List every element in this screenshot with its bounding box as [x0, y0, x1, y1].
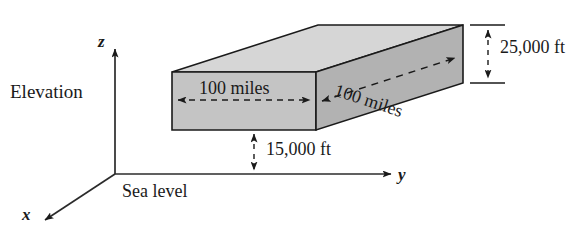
- box-height-label: 25,000 ft: [500, 38, 565, 56]
- elevation-box-diagram: Elevation z y x Sea level 100 miles 100 …: [0, 0, 585, 240]
- z-axis-label: z: [98, 33, 105, 50]
- sea-level-label: Sea level: [122, 182, 187, 200]
- x-axis: [45, 174, 115, 220]
- x-axis-label: x: [22, 206, 31, 223]
- diagram-canvas: [0, 0, 585, 240]
- y-axis-label: y: [398, 166, 406, 183]
- base-altitude-label: 15,000 ft: [266, 140, 331, 158]
- front-width-label: 100 miles: [199, 79, 270, 97]
- elevation-label: Elevation: [10, 82, 83, 101]
